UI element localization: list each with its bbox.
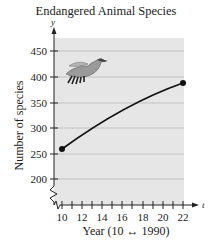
x-axis-label: Year (10 ↔ 1990): [40, 224, 212, 239]
svg-text:400: 400: [31, 71, 48, 83]
svg-text:22: 22: [178, 211, 189, 223]
x-tick-labels: 10 12 14 16 18 20 22: [57, 211, 189, 223]
y-axis-variable: y: [50, 17, 55, 27]
svg-text:20: 20: [158, 211, 170, 223]
x-axis-arrow-icon: [192, 203, 199, 208]
chart-plot: y 450 400 350 300 250 200 t: [0, 0, 212, 242]
svg-text:16: 16: [117, 211, 129, 223]
svg-text:18: 18: [138, 211, 150, 223]
svg-text:300: 300: [31, 122, 48, 134]
svg-text:200: 200: [31, 173, 48, 185]
svg-text:14: 14: [97, 211, 109, 223]
svg-text:12: 12: [77, 211, 88, 223]
data-point-start: [59, 146, 65, 152]
svg-text:350: 350: [31, 97, 48, 109]
svg-text:450: 450: [31, 45, 48, 57]
data-point-end: [180, 80, 186, 86]
x-axis-variable: t: [202, 200, 205, 210]
svg-text:250: 250: [31, 148, 48, 160]
plot-background: [54, 38, 184, 205]
y-tick-labels: 450 400 350 300 250 200: [31, 45, 48, 185]
y-axis-label: Number of species: [12, 71, 27, 181]
svg-text:10: 10: [57, 211, 69, 223]
y-axis-arrow-icon: [52, 27, 57, 34]
